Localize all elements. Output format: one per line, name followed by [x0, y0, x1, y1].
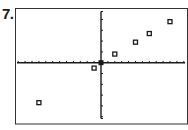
square-marker-icon	[113, 52, 117, 56]
square-marker-icon	[37, 101, 41, 105]
square-marker-icon	[92, 66, 96, 70]
square-marker-icon	[134, 40, 138, 44]
square-marker-icon	[168, 20, 172, 24]
scatter-plot	[0, 0, 188, 130]
square-marker-icon	[99, 60, 104, 65]
square-marker-icon	[147, 32, 151, 36]
